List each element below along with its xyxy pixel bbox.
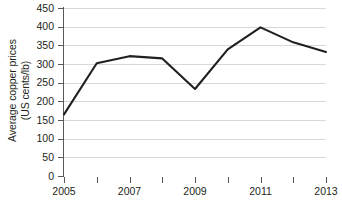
- y-axis-title-line-2: (US cents/lb): [18, 39, 31, 142]
- x-axis-tick: [228, 177, 229, 183]
- x-axis-tick: [97, 177, 98, 183]
- x-axis-tick-label: 2013: [306, 186, 342, 197]
- x-axis-tick: [64, 177, 65, 183]
- x-axis-tick-label: 2005: [44, 186, 84, 197]
- x-axis-tick: [195, 177, 196, 183]
- x-axis-tick: [130, 177, 131, 183]
- x-axis-tick: [261, 177, 262, 183]
- y-axis-line: [63, 7, 64, 177]
- y-axis-tick-label: 300: [14, 59, 54, 70]
- gridline: [64, 101, 326, 102]
- gridline: [64, 120, 326, 121]
- gridline: [64, 45, 326, 46]
- gridline: [64, 83, 326, 84]
- x-axis-tick-label: 2009: [175, 186, 215, 197]
- x-axis-tick: [162, 177, 163, 183]
- y-axis-tick-label: 150: [14, 115, 54, 126]
- y-axis-title-line-1: Average copper prices: [6, 39, 19, 142]
- gridline: [64, 8, 326, 9]
- x-axis-tick-label: 2007: [110, 186, 150, 197]
- y-axis-tick-label: 450: [14, 3, 54, 14]
- gridline: [64, 27, 326, 28]
- gridline: [64, 139, 326, 140]
- x-axis-tick: [293, 177, 294, 183]
- gridline: [64, 157, 326, 158]
- y-axis-tick-label: 200: [14, 96, 54, 107]
- x-axis-tick-label: 2011: [241, 186, 281, 197]
- gridline: [64, 64, 326, 65]
- y-axis-tick-label: 0: [14, 171, 54, 182]
- y-axis-tick-label: 350: [14, 40, 54, 51]
- y-axis-tick-label: 100: [14, 133, 54, 144]
- y-axis-tick-label: 50: [14, 152, 54, 163]
- y-axis-tick-label: 400: [14, 21, 54, 32]
- x-axis-tick: [326, 177, 327, 183]
- y-axis-tick-label: 250: [14, 77, 54, 88]
